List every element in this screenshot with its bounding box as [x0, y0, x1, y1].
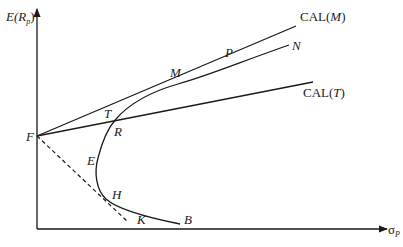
efficient-frontier-curve	[96, 45, 289, 224]
cal-t-line	[37, 82, 313, 136]
y-axis-label: E(Rp)	[5, 9, 35, 26]
cal-m-line	[37, 26, 296, 136]
point-p-label: P	[224, 45, 233, 60]
n-label: N	[291, 38, 302, 53]
point-r-label: R	[113, 124, 122, 139]
dashed-tangent-line	[37, 136, 128, 222]
point-t-label: T	[104, 106, 112, 121]
efficient-frontier-diagram: E(Rp) σP CAL(M) N CAL(T) F T R M P E H K…	[0, 0, 403, 247]
point-k-label: K	[136, 212, 147, 227]
x-axis-label: σP	[388, 222, 400, 239]
cal-m-label: CAL(M)	[300, 9, 346, 24]
point-f-label: F	[25, 129, 35, 144]
point-b-label: B	[184, 212, 192, 227]
point-h-label: H	[111, 187, 122, 202]
point-m-label: M	[169, 65, 182, 80]
point-e-label: E	[86, 153, 95, 168]
cal-t-label: CAL(T)	[303, 85, 345, 100]
